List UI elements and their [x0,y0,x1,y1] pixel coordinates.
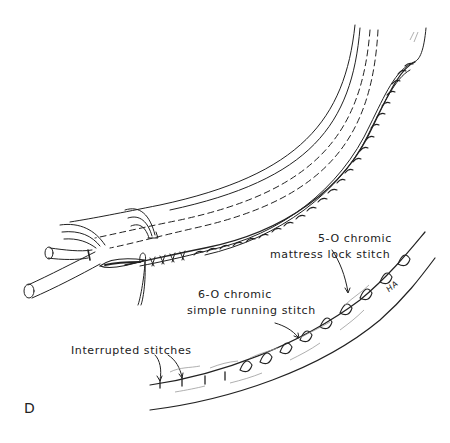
upper-vessel-outer-wall [70,25,355,222]
suture-strands-1 [60,224,105,248]
label-mattress-suture: 5-O chromic [318,232,392,245]
upper-vessel-dashed-1 [95,30,370,238]
arrow-interrupted-1 [155,355,161,380]
lock-stitch-bumps [194,63,413,255]
lock-stitch-line-2 [205,70,410,255]
right-boundary [140,28,426,266]
upper-vessel-dashed-2 [110,30,378,248]
label-running-suture: 6-O chromic [198,288,272,301]
tube-end [24,284,34,298]
interrupted-stitch-ticks [160,372,225,388]
tissue-shading [170,32,418,392]
arrow-running [275,323,298,337]
label-mattress-stitch: mattress lock stitch [270,248,390,261]
label-interrupted-stitches: Interrupted stitches [71,344,192,357]
line-drawing [0,0,450,443]
suture-strands-2 [125,209,155,238]
panel-letter: D [24,400,35,416]
arrow-interrupted-2 [168,355,182,377]
label-running-stitch: simple running stitch [187,304,316,317]
upper-left-tube [48,248,92,260]
